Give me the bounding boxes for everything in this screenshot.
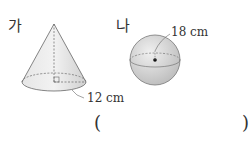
sphere-diameter-label: 18 cm [171, 25, 208, 39]
answer-close-paren: ) [242, 112, 249, 133]
sphere-figure [130, 34, 180, 85]
cone-label: 가 [8, 14, 22, 35]
answer-blank[interactable] [105, 116, 239, 136]
sphere-label: 나 [116, 14, 130, 35]
answer-open-paren: ( [94, 112, 101, 133]
cone-figure [22, 24, 86, 98]
cone-radius-label: 12 cm [87, 91, 124, 105]
